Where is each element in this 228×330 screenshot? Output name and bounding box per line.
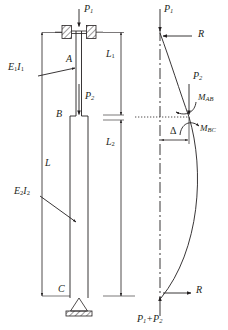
moment-BC-arrow (180, 123, 199, 135)
label-delta: Δ (170, 126, 176, 136)
label-node-A: A (66, 54, 72, 64)
label-length-L2: L2 (106, 137, 115, 148)
buckled-shape-lower (161, 117, 198, 298)
buckled-shape-upper (160, 33, 189, 117)
figure-canvas: P1 A P2 B C E1I1 E2I2 L L1 L2 P1 R P2 MA… (0, 0, 228, 330)
E1I1-leader-line (38, 68, 75, 76)
label-P1-right: P1 (164, 4, 173, 15)
label-base-axial-load: P1+P2 (137, 314, 162, 325)
label-E1I1: E1I1 (8, 62, 24, 73)
label-length-L1: L1 (106, 49, 115, 60)
label-node-C: C (58, 284, 65, 294)
lower-column-member (70, 116, 88, 298)
label-P2-left: P2 (85, 91, 94, 102)
label-R-top: R (198, 29, 204, 39)
L1-dimension (103, 33, 124, 116)
label-P2-right: P2 (193, 71, 202, 82)
label-E2I2: E2I2 (14, 186, 30, 197)
label-length-L: L (45, 158, 51, 168)
top-fixed-support-icon (55, 26, 103, 39)
label-moment-AB: MAB (198, 93, 213, 103)
label-R-bottom: R (196, 285, 202, 295)
label-P1-left: P1 (84, 4, 93, 15)
label-moment-BC: MBC (200, 124, 216, 134)
bottom-pin-support-icon (66, 298, 92, 316)
E2I2-leader-line (40, 196, 76, 222)
label-node-B: B (56, 109, 62, 119)
